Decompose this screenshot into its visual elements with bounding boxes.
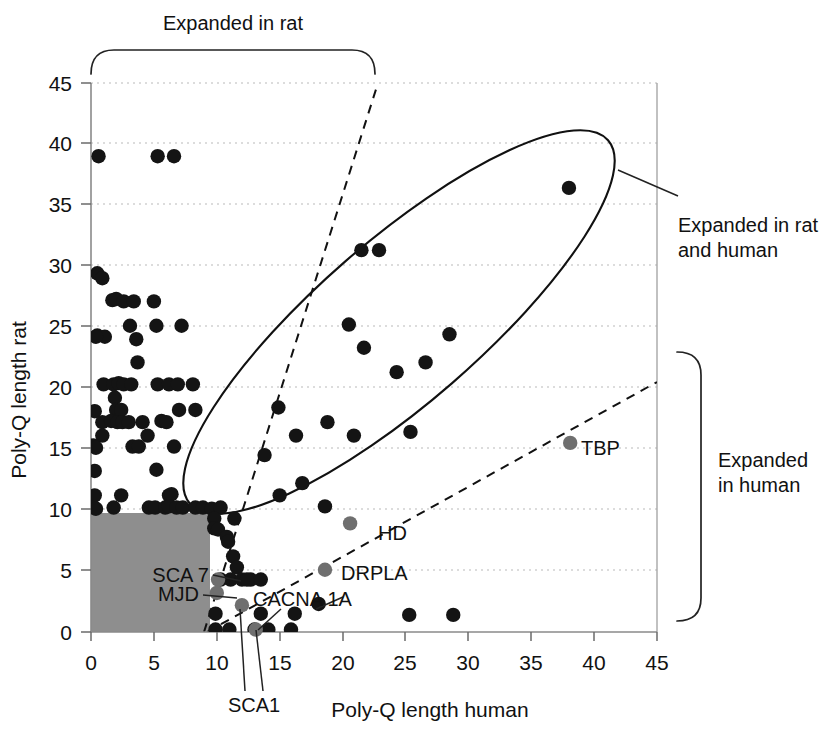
ellipse-leader-line: [618, 170, 678, 196]
scatter-plot-svg: 45 40 35 30 25 20 15 10 5 0 0 5 10 15 20…: [0, 0, 828, 742]
sca1-leader-line-2: [256, 630, 263, 691]
data-point: [167, 149, 181, 163]
data-point: [147, 294, 161, 308]
data-point: [88, 464, 102, 478]
y-tick-label: 45: [49, 72, 72, 95]
data-point: [227, 511, 241, 525]
x-tick-label: 0: [85, 651, 97, 674]
polyq-scatter-figure: 45 40 35 30 25 20 15 10 5 0 0 5 10 15 20…: [0, 0, 828, 742]
sca1-leader-line: [240, 609, 245, 691]
gene-data-point: [210, 586, 224, 600]
y-tick-label: 10: [49, 498, 72, 521]
data-point: [402, 608, 416, 622]
y-tick-label: 15: [49, 437, 72, 460]
data-point: [289, 428, 303, 442]
data-point: [135, 415, 149, 429]
data-point: [320, 415, 334, 429]
data-point: [176, 500, 190, 514]
x-tick-label: 25: [393, 651, 416, 674]
data-point: [272, 488, 286, 502]
data-point: [132, 439, 146, 453]
data-point: [124, 377, 138, 391]
x-tick-label: 5: [148, 651, 160, 674]
y-tick-label: 40: [49, 132, 72, 155]
y-tick-label: 30: [49, 254, 72, 277]
y-axis-ticks: [81, 83, 91, 632]
gene-data-point: [563, 436, 577, 450]
data-point: [172, 403, 186, 417]
y-tick-label: 25: [49, 315, 72, 338]
gene-label-mjd: MJD: [158, 583, 199, 605]
expanded-rat-human-label-line2: and human: [678, 239, 778, 261]
x-tick-label: 20: [331, 651, 354, 674]
data-point: [389, 365, 403, 379]
data-point: [150, 149, 164, 163]
data-point: [123, 319, 137, 333]
data-point: [127, 294, 141, 308]
data-point: [129, 332, 143, 346]
data-point: [186, 377, 200, 391]
data-point: [114, 488, 128, 502]
data-point: [208, 622, 222, 636]
x-tick-label: 40: [582, 651, 605, 674]
y-tick-label: 35: [49, 193, 72, 216]
x-axis-ticks: [91, 632, 657, 641]
data-point: [122, 415, 136, 429]
gene-label-tbp: TBP: [581, 437, 620, 459]
expanded-in-human-bracket: [677, 352, 701, 621]
data-point: [188, 403, 202, 417]
gene-data-point: [343, 516, 357, 530]
gene-data-point: [211, 572, 225, 586]
data-point: [342, 317, 356, 331]
data-point: [254, 572, 268, 586]
expanded-in-rat-and-human-ellipse: [137, 79, 661, 565]
x-tick-label: 35: [519, 651, 542, 674]
y-tick-label: 5: [60, 559, 72, 582]
data-point: [295, 476, 309, 490]
data-point: [149, 463, 163, 477]
gene-data-point: [249, 622, 263, 636]
data-point: [318, 499, 332, 513]
data-point: [372, 243, 386, 257]
data-point: [347, 428, 361, 442]
data-point: [108, 391, 122, 405]
y-tick-label: 0: [60, 621, 72, 644]
data-point: [174, 319, 188, 333]
gene-label-cacna1a: CACNA 1A: [253, 588, 353, 610]
data-point: [95, 271, 109, 285]
x-tick-label: 15: [268, 651, 291, 674]
data-point: [418, 355, 432, 369]
expanded-in-human-label-line2: in human: [718, 474, 800, 496]
data-point: [221, 535, 235, 549]
data-point: [208, 607, 222, 621]
gene-data-point: [318, 563, 332, 577]
data-point: [562, 181, 576, 195]
data-point: [130, 355, 144, 369]
gene-label-sca1: SCA1: [228, 694, 280, 716]
expanded-in-rat-label: Expanded in rat: [163, 12, 304, 34]
data-point: [240, 572, 254, 586]
data-point: [354, 243, 368, 257]
data-point: [106, 500, 120, 514]
data-point: [159, 415, 173, 429]
data-point: [357, 341, 371, 355]
data-point: [149, 319, 163, 333]
x-tick-label: 45: [645, 651, 668, 674]
expanded-rat-human-label-line1: Expanded in rat: [678, 214, 819, 236]
data-point: [91, 149, 105, 163]
upper-dashed-reference-line: [204, 83, 378, 632]
data-point: [88, 488, 102, 502]
gene-label-drpla: DRPLA: [341, 562, 408, 584]
data-point: [284, 622, 298, 636]
x-axis-title: Poly-Q length human: [331, 698, 528, 721]
y-tick-labels: 45 40 35 30 25 20 15 10 5 0: [49, 72, 72, 644]
data-point: [171, 377, 185, 391]
data-point: [271, 400, 285, 414]
data-point: [164, 487, 178, 501]
data-point: [442, 327, 456, 341]
expanded-in-human-label-line1: Expanded: [718, 449, 808, 471]
expanded-in-rat-bracket: [91, 50, 375, 74]
data-point: [446, 608, 460, 622]
data-point: [403, 425, 417, 439]
x-tick-label: 30: [456, 651, 479, 674]
